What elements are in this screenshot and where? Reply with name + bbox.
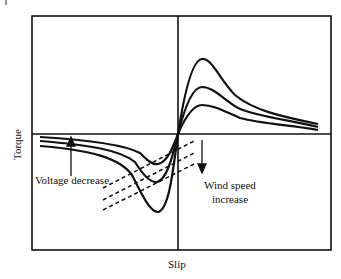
curve-high: [40, 59, 318, 212]
plot-frame: [32, 16, 331, 250]
x-axis-label: Slip: [168, 259, 186, 270]
y-axis-label: Torque: [12, 129, 23, 160]
arrow-down-icon: [198, 164, 206, 173]
wind-annotation-line1: Wind speed: [204, 180, 256, 191]
wind-line-2: [103, 152, 196, 200]
wind-lines: [103, 140, 196, 210]
voltage-annotation: Voltage decrease: [35, 175, 109, 186]
torque-curves: [40, 59, 318, 212]
wind-line-3: [103, 163, 196, 210]
torque-slip-chart: [0, 0, 341, 279]
wind-annotation-line2: increase: [212, 194, 248, 205]
